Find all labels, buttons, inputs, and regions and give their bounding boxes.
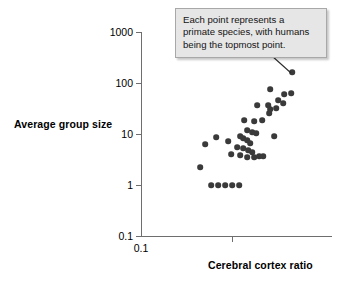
data-point (234, 144, 240, 150)
data-point (208, 182, 214, 188)
data-point (260, 153, 266, 159)
data-point (237, 152, 243, 158)
data-point (267, 86, 273, 92)
data-point (288, 90, 294, 96)
data-point-humans (289, 69, 295, 75)
data-point (254, 102, 260, 108)
data-point (259, 117, 265, 123)
data-point (213, 134, 219, 140)
data-point (228, 151, 234, 157)
callout-box: Each point represents a primate species,… (175, 8, 327, 58)
data-point (225, 138, 231, 144)
data-point (271, 133, 277, 139)
data-point (229, 182, 235, 188)
data-point (273, 105, 279, 111)
data-point (202, 141, 208, 147)
data-point (247, 140, 253, 146)
data-point (222, 182, 228, 188)
data-point (197, 164, 203, 170)
data-point (241, 117, 247, 123)
callout-text: Each point represents a primate species,… (183, 14, 320, 51)
data-point (280, 100, 286, 106)
data-point (251, 118, 257, 124)
data-point (215, 182, 221, 188)
data-point (244, 154, 250, 160)
chart-figure: Average group size Cerebral cortex ratio… (0, 0, 340, 281)
data-point (266, 110, 272, 116)
data-point (281, 91, 287, 97)
data-point (253, 130, 259, 136)
data-point (236, 182, 242, 188)
